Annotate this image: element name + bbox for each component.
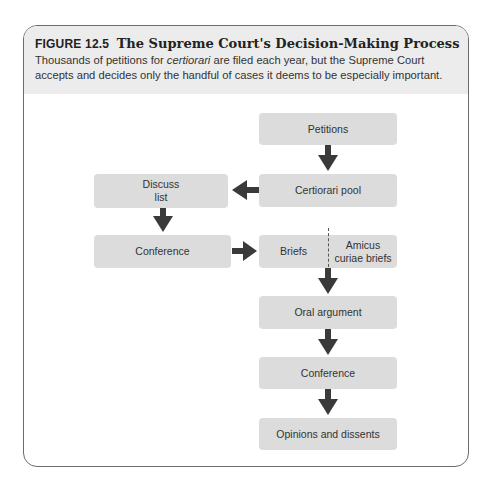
- arrow-down-icon: [318, 389, 338, 415]
- arrow-down-icon: [318, 329, 338, 355]
- arrow-right-icon: [232, 241, 257, 261]
- arrow-left-icon: [232, 180, 259, 200]
- flow-arrows: [0, 0, 492, 489]
- arrow-down-icon: [318, 268, 338, 294]
- arrow-down-icon: [318, 145, 338, 171]
- arrow-down-icon: [153, 208, 173, 232]
